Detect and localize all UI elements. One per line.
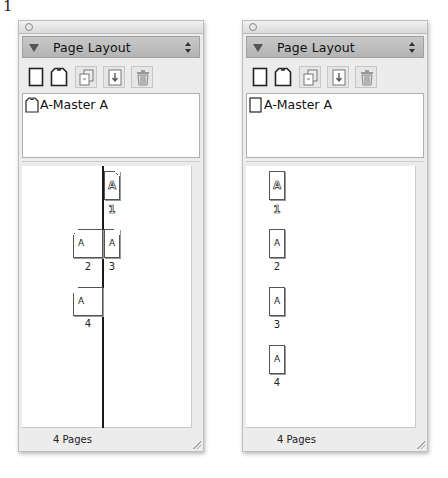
- page-number: 1: [104, 204, 120, 215]
- page-master-letter: A: [270, 296, 284, 306]
- page-number: 4: [80, 318, 96, 329]
- insert-page-icon: [104, 67, 126, 89]
- facing-master-icon: [25, 97, 39, 113]
- single-master-icon: [249, 97, 263, 113]
- page-thumb-4[interactable]: A: [73, 287, 103, 316]
- page-count-label: 4 Pages: [53, 434, 92, 445]
- page-number: 3: [104, 261, 120, 272]
- duplicate-page-button[interactable]: [75, 66, 97, 88]
- page-thumb-4[interactable]: A: [269, 345, 285, 374]
- page-master-letter: A: [105, 238, 119, 248]
- insert-page-button[interactable]: [103, 66, 125, 88]
- document-pages-area: A 1 A 2 A 3 A 4: [246, 166, 416, 428]
- collapse-triangle-icon[interactable]: [253, 44, 263, 52]
- palette-toolbar: [251, 66, 421, 88]
- document-pages-area: A 1 A A 2 3 A 4: [22, 166, 192, 428]
- page-thumb-3[interactable]: A: [104, 229, 120, 258]
- close-button[interactable]: [25, 23, 33, 31]
- palette-titlebar[interactable]: [243, 21, 427, 34]
- panel-divider[interactable]: [22, 161, 200, 164]
- delete-page-button[interactable]: [131, 66, 153, 88]
- page-number: 4: [269, 377, 285, 388]
- page-count-label: 4 Pages: [277, 434, 316, 445]
- trash-icon: [356, 67, 378, 89]
- trash-icon: [132, 67, 154, 89]
- resize-grip-icon[interactable]: [192, 440, 201, 449]
- page-number: 2: [80, 261, 96, 272]
- figure-label: 1: [3, 0, 13, 15]
- page-number: 1: [269, 204, 285, 215]
- page-master-letter: A: [74, 238, 88, 248]
- page-master-letter: A: [74, 296, 88, 306]
- new-master-page-button[interactable]: [49, 66, 71, 88]
- master-pages-list: A-Master A: [246, 93, 424, 158]
- panel-divider[interactable]: [246, 161, 424, 164]
- palette-toolbar: [27, 66, 197, 88]
- close-button[interactable]: [249, 23, 257, 31]
- palette-tab[interactable]: Page Layout: [246, 36, 424, 58]
- page-layout-palette-facing: Page Layout A-Master A A 1: [18, 20, 204, 452]
- new-single-page-button[interactable]: [27, 66, 49, 88]
- page-thumb-3[interactable]: A: [269, 287, 285, 316]
- page-thumb-2[interactable]: A: [269, 229, 285, 258]
- duplicate-page-button[interactable]: [299, 66, 321, 88]
- palette-title: Page Layout: [53, 40, 131, 55]
- palette-tab[interactable]: Page Layout: [22, 36, 200, 58]
- new-single-page-button[interactable]: [251, 66, 273, 88]
- page-master-letter: A: [270, 354, 284, 364]
- delete-page-button[interactable]: [355, 66, 377, 88]
- master-pages-list: A-Master A: [22, 93, 200, 158]
- page-number: 2: [269, 261, 285, 272]
- page-thumb-2[interactable]: A: [73, 229, 103, 258]
- page-master-letter: A: [270, 238, 284, 248]
- duplicate-page-icon: [300, 67, 322, 89]
- master-page-icon: [273, 66, 295, 88]
- master-label: A-Master A: [264, 97, 332, 112]
- master-label: A-Master A: [40, 97, 108, 112]
- page-layout-palette-single: Page Layout A-Master A A 1 A: [242, 20, 428, 452]
- page-number: 3: [269, 319, 285, 330]
- single-page-icon: [251, 66, 273, 88]
- page-thumb-1[interactable]: A: [269, 171, 285, 200]
- page-thumb-1[interactable]: A: [104, 171, 120, 200]
- page-master-letter: A: [105, 180, 119, 191]
- insert-page-icon: [328, 67, 350, 89]
- collapse-triangle-icon[interactable]: [29, 44, 39, 52]
- new-master-page-button[interactable]: [273, 66, 295, 88]
- page-master-letter: A: [270, 180, 284, 191]
- duplicate-page-icon: [76, 67, 98, 89]
- palette-titlebar[interactable]: [19, 21, 203, 34]
- single-page-icon: [27, 66, 49, 88]
- master-page-icon: [49, 66, 71, 88]
- insert-page-button[interactable]: [327, 66, 349, 88]
- palette-title: Page Layout: [277, 40, 355, 55]
- palette-menu-updown-icon[interactable]: [409, 42, 415, 53]
- resize-grip-icon[interactable]: [416, 440, 425, 449]
- palette-menu-updown-icon[interactable]: [185, 42, 191, 53]
